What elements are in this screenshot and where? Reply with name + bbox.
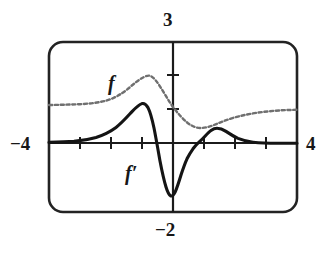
plot-canvas <box>0 0 328 253</box>
y-max-label: 3 <box>163 10 173 29</box>
calculator-screen-figure: 3 −2 −4 4 f f′ <box>0 0 328 253</box>
x-min-label: −4 <box>10 134 30 153</box>
f-curve-label: f <box>108 73 115 93</box>
y-min-label: −2 <box>155 220 175 239</box>
f-prime-curve-label: f′ <box>125 163 137 183</box>
x-max-label: 4 <box>306 134 316 153</box>
